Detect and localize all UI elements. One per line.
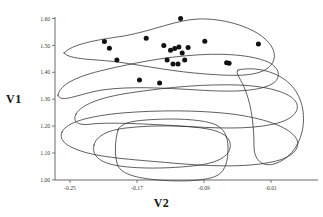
y-tick-label: 1.40 (40, 69, 50, 75)
data-point (176, 44, 181, 49)
data-point (227, 61, 232, 66)
contour-loop-3 (75, 85, 298, 128)
data-point (144, 36, 149, 41)
data-point (182, 58, 187, 63)
data-point (171, 62, 176, 67)
data-point (161, 43, 166, 48)
y-tick-label: 1.50 (40, 43, 50, 49)
contour-loop-1 (64, 19, 274, 75)
y-tick-labels: 1.60 1.50 1.40 1.30 1.20 1.10 1.00 (40, 16, 50, 183)
data-point (157, 81, 162, 86)
data-point (114, 58, 119, 63)
x-tick-labels: -0.25 -0.17 -0.09 -0.01 (64, 185, 277, 191)
data-point (178, 16, 183, 21)
y-axis-title: V1 (6, 92, 22, 107)
data-point (176, 62, 181, 67)
x-tick-label: -0.25 (64, 185, 76, 191)
y-tick-label: 1.20 (40, 123, 50, 129)
y-tick-label: 1.10 (40, 150, 50, 156)
y-tick-label: 1.60 (40, 16, 50, 22)
data-point (186, 45, 191, 50)
data-point (165, 58, 170, 63)
data-point (256, 42, 261, 47)
contour-loop-6 (115, 119, 228, 181)
contour-loop-5 (94, 126, 231, 168)
x-axis-title: V2 (0, 196, 323, 211)
x-tick-label: -0.09 (198, 185, 210, 191)
x-tick-label: -0.17 (131, 185, 143, 191)
data-point (137, 78, 142, 83)
x-tick-label: -0.01 (265, 185, 277, 191)
data-point (102, 39, 107, 44)
contour-overlays (58, 19, 304, 181)
y-tick-label: 1.30 (40, 96, 50, 102)
plot-canvas: 1.60 1.50 1.40 1.30 1.20 1.10 1.00 -0.25… (0, 0, 323, 217)
data-point (202, 39, 207, 44)
y-tick-label: 1.00 (40, 177, 50, 183)
data-point (107, 46, 112, 51)
axes: 1.60 1.50 1.40 1.30 1.20 1.10 1.00 -0.25… (40, 16, 318, 191)
scatter-plot-figure: V1 V2 1.60 1.50 1.40 1.30 1.2 (0, 0, 323, 217)
data-point (180, 50, 185, 55)
